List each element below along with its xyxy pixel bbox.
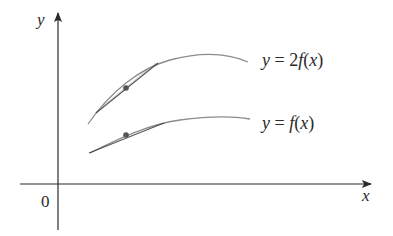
tangent-point-2f xyxy=(123,85,129,91)
x-axis-label: x xyxy=(361,186,370,205)
label-f: y = f(x) xyxy=(260,113,314,134)
tangent-point-f xyxy=(123,132,129,138)
tangent-line-f xyxy=(89,123,164,153)
origin-label: 0 xyxy=(41,192,50,211)
curve-2f xyxy=(88,54,248,124)
label-2f: y = 2f(x) xyxy=(260,50,323,71)
function-graph: y x 0 y = 2f(x) y = f(x) xyxy=(0,0,393,236)
curve-f xyxy=(90,117,250,153)
y-axis-label: y xyxy=(35,10,45,29)
